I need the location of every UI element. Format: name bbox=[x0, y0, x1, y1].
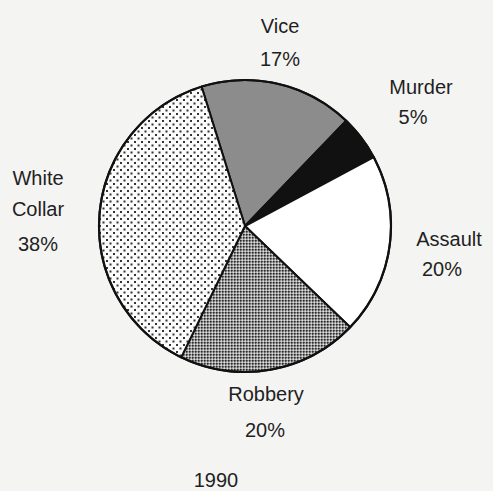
robbery-label: Robbery bbox=[228, 384, 304, 404]
robbery-percent: 20% bbox=[245, 420, 285, 440]
vice-label: Vice bbox=[261, 16, 300, 36]
murder-label: Murder bbox=[389, 77, 452, 97]
assault-percent: 20% bbox=[422, 259, 462, 279]
pie-slices bbox=[99, 80, 391, 372]
assault-label: Assault bbox=[416, 229, 482, 249]
chart-caption-year: 1990 bbox=[194, 470, 239, 490]
white-collar-label-line2: Collar bbox=[12, 199, 64, 219]
white-collar-percent: 38% bbox=[18, 234, 58, 254]
white-collar-label-line1: White bbox=[12, 168, 63, 188]
vice-percent: 17% bbox=[260, 49, 300, 69]
murder-percent: 5% bbox=[399, 107, 428, 127]
